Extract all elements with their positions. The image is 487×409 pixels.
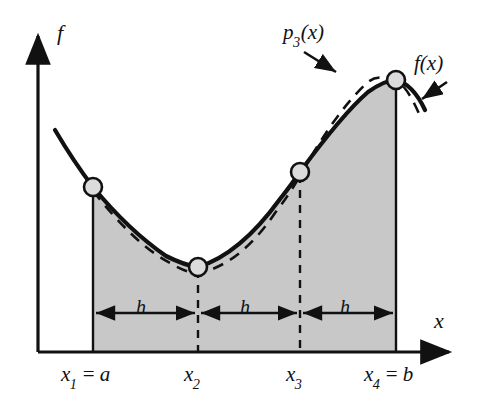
tick-equals-x4: = xyxy=(380,362,402,386)
tick-label-x1: x1 = a xyxy=(61,364,110,388)
polynomial-label-base: p xyxy=(283,20,294,44)
node-marker-x4 xyxy=(387,71,405,89)
node-marker-x3 xyxy=(291,163,309,181)
y-axis-label: f xyxy=(57,22,63,44)
p3-leader-arrow xyxy=(304,52,336,72)
x-axis-label: x xyxy=(434,310,444,332)
tick-sub-x2: 2 xyxy=(193,376,200,392)
tick-value-x4: b xyxy=(403,362,414,386)
f-leader-arrow xyxy=(422,82,447,99)
tick-equals-x1: = xyxy=(77,362,99,386)
spacing-label-3: h xyxy=(340,297,350,317)
polynomial-label-argument: (x) xyxy=(301,20,324,44)
node-marker-x1 xyxy=(84,178,102,196)
simpsons-rule-figure: f x p3(x) f(x) h h h x1 = a x2 x3 x4 = b xyxy=(0,0,487,409)
spacing-label-2: h xyxy=(240,297,250,317)
polynomial-label-subscript: 3 xyxy=(293,34,300,50)
spacing-label-1: h xyxy=(136,297,146,317)
tick-label-x3: x3 xyxy=(286,364,302,388)
function-curve-label: f(x) xyxy=(414,53,443,74)
node-marker-x2 xyxy=(189,258,207,276)
tick-base-x4: x xyxy=(364,362,373,386)
tick-label-x4: x4 = b xyxy=(364,364,413,388)
tick-value-x1: a xyxy=(100,362,111,386)
tick-sub-x1: 1 xyxy=(70,376,77,392)
polynomial-curve-label: p3(x) xyxy=(283,22,324,46)
tick-sub-x3: 3 xyxy=(295,376,302,392)
tick-sub-x4: 4 xyxy=(373,376,380,392)
tick-label-x2: x2 xyxy=(184,364,200,388)
tick-base-x1: x xyxy=(61,362,70,386)
tick-base-x3: x xyxy=(286,362,295,386)
tick-base-x2: x xyxy=(184,362,193,386)
